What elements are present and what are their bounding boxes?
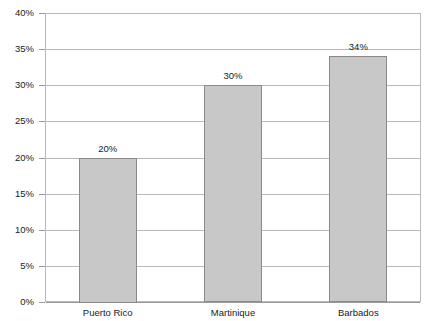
bar-puerto-rico <box>79 158 137 303</box>
bar-barbados <box>329 56 387 302</box>
y-axis-label: 30% <box>0 80 34 90</box>
bar-martinique <box>204 85 262 302</box>
bar-value-label: 20% <box>68 143 148 154</box>
bars-group <box>45 13 421 302</box>
y-axis-label: 15% <box>0 189 34 199</box>
bar-value-label: 30% <box>193 70 273 81</box>
y-axis-label: 40% <box>0 8 34 18</box>
category-label-puerto-rico: Puerto Rico <box>48 307 168 318</box>
category-label-barbados: Barbados <box>298 307 418 318</box>
y-axis-label: 25% <box>0 116 34 126</box>
y-axis-label: 35% <box>0 44 34 54</box>
y-axis-label: 20% <box>0 153 34 163</box>
category-label-martinique: Martinique <box>173 307 293 318</box>
y-axis-label: 0% <box>0 297 34 307</box>
y-axis-label: 5% <box>0 261 34 271</box>
bar-chart: 0%5%10%15%20%25%30%35%40% 20%30%34% Puer… <box>0 0 433 321</box>
bar-value-label: 34% <box>318 41 398 52</box>
y-axis-label: 10% <box>0 225 34 235</box>
y-tick-mark-0pct <box>39 302 45 303</box>
